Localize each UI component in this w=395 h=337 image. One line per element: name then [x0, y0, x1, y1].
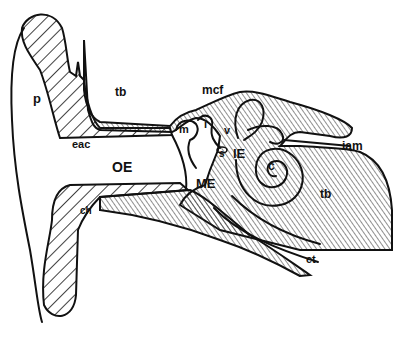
label-malleus: m [179, 123, 189, 135]
label-middle-ear: ME [196, 176, 216, 191]
ear-diagram: p tb mcf m i v s IE c iam eac OE ME tb e… [0, 0, 395, 337]
label-temporal-bone-upper: tb [115, 85, 126, 99]
pinna-outline [11, 28, 42, 322]
label-canal-small: ch [80, 205, 92, 216]
ear-cross-section-drawing: p tb mcf m i v s IE c iam eac OE ME tb e… [0, 0, 395, 337]
tympanic-membrane [172, 135, 186, 190]
label-vestibule: v [224, 124, 231, 136]
label-inner-ear: IE [233, 146, 246, 161]
label-outer-ear: OE [112, 159, 132, 175]
label-internal-auditory-meatus: iam [342, 139, 363, 153]
label-incus: i [204, 118, 207, 130]
label-middle-cranial-fossa: mcf [202, 83, 224, 97]
label-pinna: p [33, 91, 41, 106]
label-cochlea: c [268, 159, 275, 173]
label-temporal-bone-lower: tb [320, 187, 331, 201]
label-external-auditory-canal: eac [72, 138, 90, 150]
label-eustachian-tube: et [306, 253, 316, 265]
label-stapes: s [219, 148, 225, 159]
